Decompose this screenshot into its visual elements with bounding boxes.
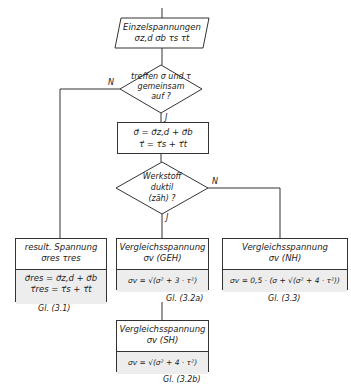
sh-eq: σv = √(σ² + 4 · τ²) (117, 351, 208, 374)
decision2-line3: (zäh) ? (122, 194, 202, 204)
geh-ref: Gl. (3.2a) (166, 294, 203, 303)
nh-ref: Gl. (3.3) (268, 294, 300, 303)
nh-box: Vergleichsspannung σv (NH) σv = 0,5 · (σ… (222, 238, 348, 290)
sh-sub: σv (SH) (117, 335, 208, 346)
resultant-eq2: τ⃗res = τ⃗s + τ⃗t (16, 284, 106, 295)
decision2-no-label: N (212, 177, 218, 186)
geh-title: Vergleichsspannung (117, 242, 208, 253)
decision1-line1: treffen σ und τ (121, 72, 201, 82)
resultant-title: result. Spannung (16, 242, 106, 253)
decision2-yes-label: J (166, 213, 168, 222)
resultant-box: result. Spannung σres τres σ⃗res = σ⃗z,d… (15, 238, 107, 302)
combine-box: σ⃗ = σ⃗z,d + σ⃗b τ⃗ = τ⃗s + τ⃗t (117, 122, 209, 154)
sh-box: Vergleichsspannung σv (SH) σv = √(σ² + 4… (116, 320, 209, 372)
resultant-sub: σres τres (16, 253, 106, 264)
geh-sub: σv (GEH) (117, 253, 208, 264)
combine-tau: τ⃗ = τ⃗s + τ⃗t (118, 139, 208, 149)
decision2-line1: Werkstoff (122, 172, 202, 182)
input-vars: σz,d σb τs τt (116, 33, 208, 43)
sh-title: Vergleichsspannung (117, 324, 208, 335)
nh-title: Vergleichsspannung (223, 242, 347, 253)
decision1-yes-label: J (165, 113, 167, 122)
resultant-eq1: σ⃗res = σ⃗z,d + σ⃗b (16, 273, 106, 284)
input-title: Einzelspannungen (116, 22, 208, 32)
nh-sub: σv (NH) (223, 253, 347, 264)
combine-sigma: σ⃗ = σ⃗z,d + σ⃗b (118, 127, 208, 137)
decision1-no-label: N (108, 78, 114, 87)
decision2-line2: duktil (122, 183, 202, 193)
nh-eq: σv = 0,5 · (σ + √(σ² + 4 · τ²)) (223, 269, 347, 292)
sh-ref: Gl. (3.2b) (163, 375, 201, 384)
resultant-ref: Gl. (3.1) (38, 304, 70, 313)
decision1-line3: auf ? (121, 92, 201, 102)
geh-eq: σv = √(σ² + 3 · τ²) (117, 269, 208, 292)
decision1-line2: gemeinsam (121, 82, 201, 92)
geh-box: Vergleichsspannung σv (GEH) σv = √(σ² + … (116, 238, 209, 290)
